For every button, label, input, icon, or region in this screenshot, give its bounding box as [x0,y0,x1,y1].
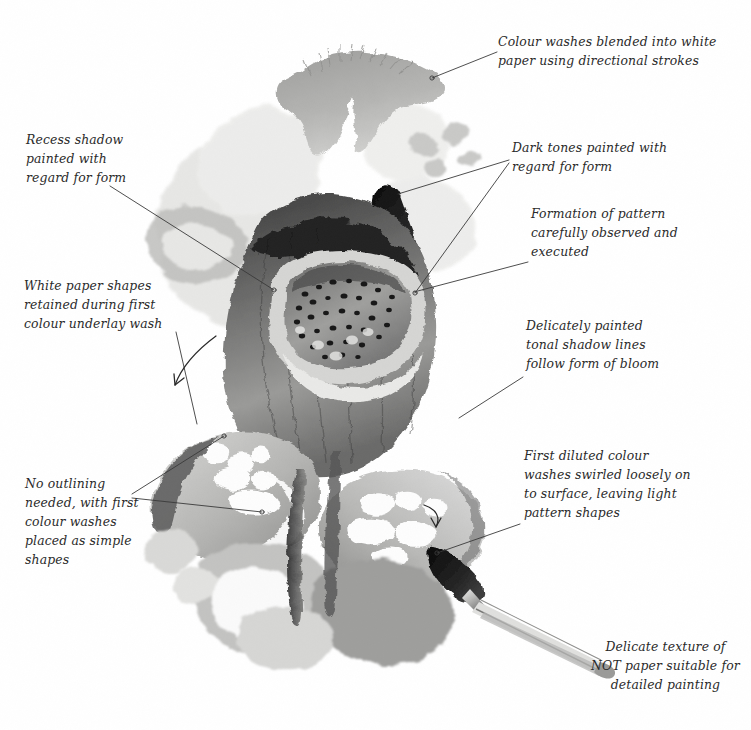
annotation-delicately-painted-tonal: Delicately painted tonal shadow lines fo… [526,316,716,373]
annotation-recess-shadow: Recess shadow painted with regard for fo… [26,130,176,187]
curved-arrow-brush-tip [424,505,441,527]
annotation-white-paper-shapes: White paper shapes retained during first… [24,276,194,333]
annotation-formation-of-pattern: Formation of pattern carefully observed … [531,204,721,261]
annotation-first-diluted-colour: First diluted colour washes swirled loos… [524,446,732,522]
leader-first-diluted-colour [435,524,520,555]
annotation-delicate-texture-not-paper: Delicate texture of NOT paper suitable f… [588,637,743,694]
leader-colour-washes-blended [430,52,497,80]
leader-formation-of-pattern [414,262,528,292]
curved-arrow-down-left [174,336,216,385]
annotation-colour-washes-blended: Colour washes blended into white paper u… [498,32,724,70]
artwork-page: Colour washes blended into white paper u… [0,0,751,730]
leader-dark-tones-painted [398,160,509,295]
annotation-dark-tones-painted: Dark tones painted with regard for form [512,138,720,176]
leader-white-paper-shapes [176,332,197,424]
annotation-no-outlining-needed: No outlining needed, with first colour w… [25,474,160,569]
leader-delicately-painted-tonal [459,377,523,418]
